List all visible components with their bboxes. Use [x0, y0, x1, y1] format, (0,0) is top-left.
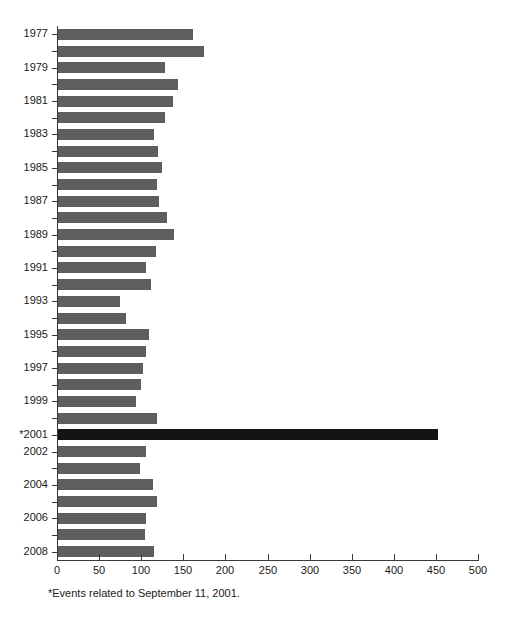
y-axis-label: 1989	[0, 229, 48, 240]
bar-chart: 1977197919811983198519871989199119931995…	[0, 0, 508, 620]
y-axis-tick	[52, 502, 58, 503]
x-axis-label: 50	[77, 564, 121, 577]
x-axis-label: 300	[288, 564, 332, 577]
y-axis-tick	[52, 185, 58, 186]
bar	[58, 429, 438, 440]
x-axis-tick	[57, 554, 58, 561]
bar	[58, 262, 146, 273]
y-axis-tick	[52, 401, 58, 402]
y-axis-tick	[52, 368, 58, 369]
y-axis-tick	[52, 101, 58, 102]
y-axis-label: 2006	[0, 512, 48, 523]
x-axis-label: 150	[161, 564, 205, 577]
bar	[58, 196, 159, 207]
x-axis-label: 200	[203, 564, 247, 577]
bar	[58, 279, 151, 290]
y-axis-tick	[52, 151, 58, 152]
x-axis-tick	[141, 554, 142, 561]
x-axis-label: 500	[456, 564, 500, 577]
bar	[58, 396, 136, 407]
bar	[58, 313, 126, 324]
bar	[58, 463, 140, 474]
x-axis-label: 100	[119, 564, 163, 577]
bar	[58, 329, 149, 340]
bar	[58, 79, 178, 90]
bar	[58, 446, 146, 457]
y-axis-tick	[52, 318, 58, 319]
y-axis-label: 1993	[0, 295, 48, 306]
bar	[58, 529, 145, 540]
y-axis-tick	[52, 201, 58, 202]
y-axis-tick	[52, 134, 58, 135]
bar	[58, 246, 156, 257]
bar	[58, 146, 158, 157]
y-axis-tick	[52, 251, 58, 252]
y-axis-tick	[52, 235, 58, 236]
y-axis-tick	[52, 268, 58, 269]
x-axis-tick	[99, 554, 100, 561]
bar	[58, 162, 162, 173]
y-axis-tick	[52, 435, 58, 436]
y-axis-tick	[52, 418, 58, 419]
y-axis-label: 1999	[0, 395, 48, 406]
x-axis-tick	[436, 554, 437, 561]
y-axis-tick	[52, 34, 58, 35]
y-axis-tick	[52, 84, 58, 85]
bar	[58, 179, 157, 190]
bar	[58, 29, 193, 40]
y-axis-label: 1981	[0, 95, 48, 106]
y-axis-label: 2004	[0, 479, 48, 490]
bar	[58, 212, 167, 223]
y-axis-tick	[52, 301, 58, 302]
bar	[58, 379, 141, 390]
bar	[58, 96, 173, 107]
bar	[58, 46, 204, 57]
y-axis-tick	[52, 351, 58, 352]
bar	[58, 496, 157, 507]
bar	[58, 546, 154, 557]
bar	[58, 112, 165, 123]
y-axis-tick	[52, 385, 58, 386]
x-axis-tick	[394, 554, 395, 561]
y-axis-label: 1991	[0, 262, 48, 273]
x-axis-label: 250	[246, 564, 290, 577]
y-axis-label: 1995	[0, 329, 48, 340]
y-axis-tick	[52, 68, 58, 69]
bar	[58, 229, 174, 240]
x-axis-tick	[478, 554, 479, 561]
footnote: *Events related to September 11, 2001.	[48, 586, 240, 600]
bar	[58, 296, 120, 307]
x-axis-label: 350	[330, 564, 374, 577]
y-axis-tick	[52, 518, 58, 519]
y-axis-tick	[52, 218, 58, 219]
x-axis-tick	[310, 554, 311, 561]
y-axis-label: 1985	[0, 162, 48, 173]
y-axis-label: 1987	[0, 195, 48, 206]
x-axis-label: 400	[372, 564, 416, 577]
y-axis-tick	[52, 335, 58, 336]
x-axis-tick	[225, 554, 226, 561]
bar	[58, 363, 143, 374]
bar	[58, 413, 157, 424]
y-axis-label: 1977	[0, 28, 48, 39]
y-axis-label: 2008	[0, 546, 48, 557]
x-axis-tick	[268, 554, 269, 561]
x-axis-label: 0	[35, 564, 79, 577]
y-axis-tick	[52, 168, 58, 169]
y-axis-tick	[52, 485, 58, 486]
y-axis-tick	[52, 118, 58, 119]
y-axis-tick	[52, 535, 58, 536]
x-axis-tick	[183, 554, 184, 561]
y-axis-label: 1983	[0, 128, 48, 139]
bar	[58, 346, 146, 357]
bar	[58, 129, 154, 140]
bar	[58, 479, 153, 490]
y-axis-tick	[52, 285, 58, 286]
y-axis-tick	[52, 468, 58, 469]
y-axis-tick	[52, 552, 58, 553]
bar	[58, 62, 165, 73]
y-axis-tick	[52, 51, 58, 52]
x-axis-label: 450	[414, 564, 458, 577]
y-axis-tick	[52, 452, 58, 453]
y-axis-label: 2002	[0, 446, 48, 457]
